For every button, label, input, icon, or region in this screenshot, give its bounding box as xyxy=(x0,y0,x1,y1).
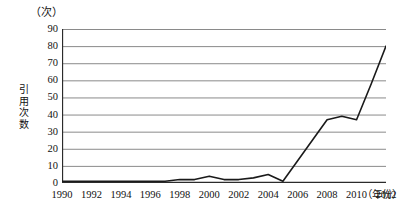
y-axis-title-char-3: 次 xyxy=(17,107,31,119)
y-tick-label-40: 40 xyxy=(32,109,58,120)
y-tick-label-80: 80 xyxy=(32,41,58,52)
plot-area xyxy=(62,29,386,183)
x-tick-label-1994: 1994 xyxy=(110,188,131,201)
y-axis-title: 引 用 次 数 xyxy=(17,84,31,130)
y-axis-title-char-1: 引 xyxy=(17,84,31,96)
x-axis-tick-labels: 1990199219941996199820002002200420062008… xyxy=(62,188,386,204)
x-tick-label-2008: 2008 xyxy=(317,188,338,201)
x-tick-label-2004: 2004 xyxy=(258,188,279,201)
y-axis-tick-labels: 0102030405060708090 xyxy=(32,29,58,183)
y-tick-label-10: 10 xyxy=(32,161,58,172)
y-tick-label-20: 20 xyxy=(32,144,58,155)
y-axis-title-char-2: 用 xyxy=(17,96,31,108)
x-tick-label-2006: 2006 xyxy=(287,188,308,201)
x-tick-label-1998: 1998 xyxy=(169,188,190,201)
y-tick-label-70: 70 xyxy=(32,58,58,69)
x-tick-label-1992: 1992 xyxy=(81,188,102,201)
x-tick-label-2000: 2000 xyxy=(199,188,220,201)
y-axis-unit-label: （次） xyxy=(30,6,63,19)
y-tick-label-90: 90 xyxy=(32,24,58,35)
x-axis-title: （年份） xyxy=(362,188,402,201)
x-tick-label-1996: 1996 xyxy=(140,188,161,201)
y-tick-label-30: 30 xyxy=(32,126,58,137)
y-tick-label-60: 60 xyxy=(32,75,58,86)
plot-svg xyxy=(62,29,386,183)
axis-lines xyxy=(62,29,386,183)
x-tick-label-2002: 2002 xyxy=(228,188,249,201)
y-axis-title-char-4: 数 xyxy=(17,119,31,131)
y-tick-label-0: 0 xyxy=(32,178,58,189)
x-tick-label-1990: 1990 xyxy=(52,188,73,201)
y-tick-label-50: 50 xyxy=(32,92,58,103)
data-series-line xyxy=(62,46,386,181)
citation-count-line-chart: （次） 引 用 次 数 0102030405060708090 19901992… xyxy=(0,0,414,217)
gridlines xyxy=(62,30,386,167)
